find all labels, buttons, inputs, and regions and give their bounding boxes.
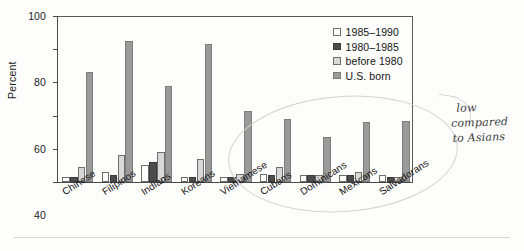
y-tick-mark: 20 — [53, 149, 57, 150]
bar — [165, 86, 173, 182]
bar — [125, 41, 133, 182]
page-divider-rule — [14, 237, 510, 238]
bar — [141, 165, 149, 182]
y-tick-label: 60 — [34, 143, 46, 155]
legend-label: 1985–1990 — [346, 26, 399, 38]
y-tick-mark: 100 — [53, 16, 57, 17]
bar-group — [220, 16, 251, 182]
legend-item: before 1980 — [333, 55, 403, 67]
legend-swatch-icon — [333, 28, 341, 36]
handwritten-note-line-3: to Asians — [452, 129, 509, 146]
y-tick-mark: 60 — [53, 82, 57, 83]
y-tick-mark: 40 — [53, 116, 57, 117]
legend-item: 1980–1985 — [333, 41, 403, 53]
legend-swatch-icon — [333, 57, 341, 65]
bar — [300, 175, 308, 182]
handwritten-note: low compared to Asians — [450, 99, 509, 146]
legend-swatch-icon — [333, 43, 341, 51]
legend-item: 1985–1990 — [333, 26, 403, 38]
bar — [379, 175, 387, 182]
bar-group — [181, 16, 212, 182]
legend-swatch-icon — [333, 72, 341, 80]
bar-group — [62, 16, 93, 182]
y-axis-title: Percent — [6, 61, 18, 99]
y-tick-label: 100 — [28, 10, 46, 22]
bar-group — [102, 16, 133, 182]
bar — [86, 72, 94, 182]
bar — [102, 172, 110, 182]
y-tick-mark: 0 — [53, 182, 57, 183]
legend-item: U.S. born — [333, 70, 403, 82]
legend-label: before 1980 — [346, 55, 403, 67]
y-axis-line — [57, 16, 58, 182]
y-tick-mark: 80 — [53, 49, 57, 50]
bar-group — [260, 16, 291, 182]
bar-group — [141, 16, 172, 182]
plot-right-border — [412, 16, 413, 182]
bar-group — [300, 16, 331, 182]
chart-legend: 1985–19901980–1985before 1980U.S. born — [333, 26, 403, 82]
chart-page: Percent 020406080100 ChineseFilipinosInd… — [0, 0, 524, 251]
legend-label: U.S. born — [346, 70, 391, 82]
y-tick-label: 80 — [34, 76, 46, 88]
bar — [260, 174, 268, 182]
y-tick-label: 40 — [34, 209, 46, 221]
bar — [205, 44, 213, 182]
legend-label: 1980–1985 — [346, 41, 399, 53]
